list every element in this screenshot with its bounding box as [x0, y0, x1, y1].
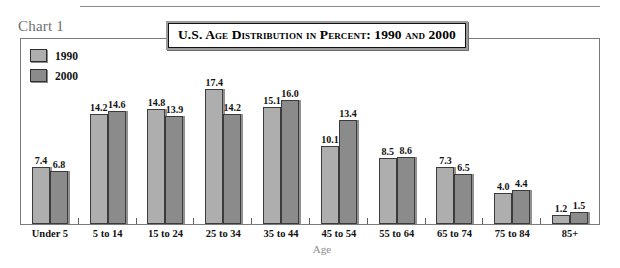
x-axis-label: 25 to 34 — [194, 228, 252, 244]
bar-pair: 14.214.6 — [90, 111, 126, 224]
bar-pair: 15.116.0 — [263, 100, 299, 224]
x-axis-label: 45 to 54 — [310, 228, 368, 244]
bar-value-label: 4.0 — [497, 181, 510, 192]
bar-wrapper: 7.4 — [32, 167, 50, 224]
bar-wrapper: 14.6 — [108, 111, 126, 224]
bar-value-label: 17.4 — [206, 77, 224, 88]
x-axis-label: 5 to 14 — [79, 228, 137, 244]
bar-pair: 1.21.5 — [552, 212, 588, 224]
chart-legend: 1990 2000 — [30, 47, 78, 87]
x-axis-label: 75 to 84 — [483, 228, 541, 244]
header-divider — [80, 6, 600, 7]
x-axis-label: 55 to 64 — [368, 228, 426, 244]
bar-wrapper: 1.5 — [570, 212, 588, 224]
bar-value-label: 14.2 — [90, 102, 108, 113]
bar-wrapper: 13.9 — [165, 116, 183, 224]
bar-group: 15.116.0 — [252, 39, 310, 224]
bar-wrapper: 7.3 — [436, 167, 454, 224]
bar-wrapper: 8.5 — [379, 158, 397, 224]
bar-group: 14.813.9 — [137, 39, 195, 224]
x-axis-label: Under 5 — [21, 228, 79, 244]
bar-value-label: 7.4 — [35, 155, 48, 166]
bar-value-label: 15.1 — [263, 95, 281, 106]
bar-pair: 17.414.2 — [205, 89, 241, 224]
bar-1990[interactable] — [147, 109, 165, 224]
bar-2000[interactable] — [570, 212, 588, 224]
bar-pair: 8.58.6 — [379, 157, 415, 224]
bar-value-label: 4.4 — [515, 178, 528, 189]
bar-1990[interactable] — [436, 167, 454, 224]
bar-group: 7.36.5 — [426, 39, 484, 224]
bar-group: 4.04.4 — [483, 39, 541, 224]
bar-wrapper: 15.1 — [263, 107, 281, 224]
bar-wrapper: 17.4 — [205, 89, 223, 224]
bar-1990[interactable] — [321, 146, 339, 224]
bar-group: 17.414.2 — [194, 39, 252, 224]
bar-1990[interactable] — [32, 167, 50, 224]
bar-wrapper: 13.4 — [339, 120, 357, 224]
bar-1990[interactable] — [552, 215, 570, 224]
chart-title-box: U.S. Age Distribution in Percent: 1990 a… — [168, 23, 466, 48]
bar-2000[interactable] — [281, 100, 299, 224]
bar-wrapper: 14.8 — [147, 109, 165, 224]
legend-item-2000: 2000 — [30, 67, 78, 84]
bar-value-label: 6.5 — [457, 162, 470, 173]
bar-wrapper: 4.4 — [512, 190, 530, 224]
legend-item-1990: 1990 — [30, 47, 78, 64]
bar-value-label: 7.3 — [439, 155, 452, 166]
bar-wrapper: 6.5 — [454, 174, 472, 224]
bar-2000[interactable] — [454, 174, 472, 224]
bar-wrapper: 1.2 — [552, 215, 570, 224]
bar-value-label: 14.8 — [148, 97, 166, 108]
bar-1990[interactable] — [205, 89, 223, 224]
x-axis-label: 35 to 44 — [252, 228, 310, 244]
x-axis-labels: Under 55 to 1415 to 2425 to 3435 to 4445… — [21, 228, 599, 244]
bar-pair: 14.813.9 — [147, 109, 183, 224]
bar-2000[interactable] — [339, 120, 357, 224]
bar-1990[interactable] — [494, 193, 512, 224]
bar-value-label: 8.5 — [381, 146, 394, 157]
bar-pair: 10.113.4 — [321, 120, 357, 224]
bar-2000[interactable] — [108, 111, 126, 224]
bar-value-label: 14.2 — [224, 102, 242, 113]
bar-value-label: 6.8 — [53, 159, 66, 170]
bar-group: 10.113.4 — [310, 39, 368, 224]
bar-value-label: 8.6 — [399, 145, 412, 156]
bar-1990[interactable] — [379, 158, 397, 224]
bar-wrapper: 4.0 — [494, 193, 512, 224]
bar-2000[interactable] — [223, 114, 241, 224]
bar-groups: 7.46.814.214.614.813.917.414.215.116.010… — [21, 39, 599, 224]
bar-wrapper: 14.2 — [223, 114, 241, 224]
bar-2000[interactable] — [397, 157, 415, 224]
bar-group: 14.214.6 — [79, 39, 137, 224]
bar-2000[interactable] — [512, 190, 530, 224]
x-axis-label: 15 to 24 — [137, 228, 195, 244]
bar-pair: 7.36.5 — [436, 167, 472, 224]
bar-group: 8.58.6 — [368, 39, 426, 224]
x-axis-label: 65 to 74 — [426, 228, 484, 244]
bar-value-label: 13.4 — [339, 108, 357, 119]
bar-1990[interactable] — [263, 107, 281, 224]
bar-wrapper: 16.0 — [281, 100, 299, 224]
x-axis-label: 85+ — [541, 228, 599, 244]
bar-group: 1.21.5 — [541, 39, 599, 224]
bar-value-label: 1.2 — [555, 203, 568, 214]
bar-value-label: 1.5 — [573, 200, 586, 211]
bar-1990[interactable] — [90, 114, 108, 224]
bar-value-label: 13.9 — [166, 104, 184, 115]
bar-2000[interactable] — [165, 116, 183, 224]
bar-pair: 4.04.4 — [494, 190, 530, 224]
chart-title: U.S. Age Distribution in Percent: 1990 a… — [178, 27, 456, 43]
bar-wrapper: 14.2 — [90, 114, 108, 224]
bar-pair: 7.46.8 — [32, 167, 68, 224]
bar-wrapper: 6.8 — [50, 171, 68, 224]
chart-caption: Chart 1 — [18, 18, 64, 35]
bar-wrapper: 8.6 — [397, 157, 415, 224]
bar-value-label: 10.1 — [321, 134, 339, 145]
bar-value-label: 16.0 — [281, 88, 299, 99]
legend-swatch-1990 — [30, 49, 47, 62]
legend-label-1990: 1990 — [55, 50, 78, 62]
legend-label-2000: 2000 — [55, 70, 78, 82]
bar-value-label: 14.6 — [108, 99, 126, 110]
bar-2000[interactable] — [50, 171, 68, 224]
